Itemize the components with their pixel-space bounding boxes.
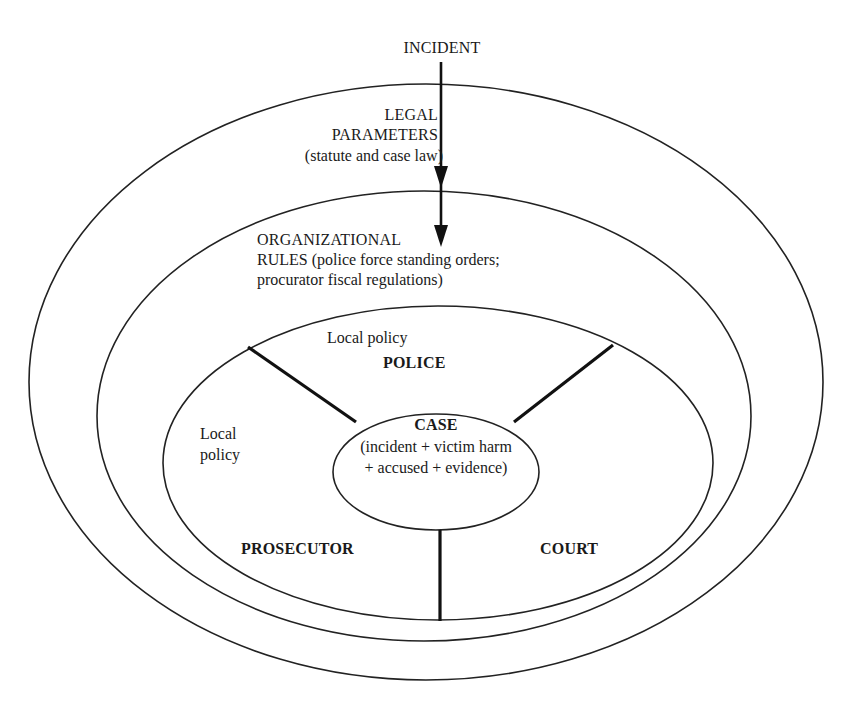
spoke-police-court [514,345,613,422]
case-title: CASE [386,415,486,434]
prosecutor-label: PROSECUTOR [241,539,354,558]
incident-label: INCIDENT [400,38,484,57]
case-description: + accused + evidence) [336,458,536,477]
legal-parameters-label: LEGAL [300,105,438,124]
arrowhead-icon [434,166,448,188]
arrowhead-icon [434,225,448,247]
organizational-rules-description: procurator fiscal regulations) [257,270,443,289]
prosecutor-local-policy: Local [200,424,236,443]
legal-parameters-label: PARAMETERS [300,125,438,144]
legal-parameters-description: (statute and case law) [250,146,443,165]
legal-parameters-ellipse [29,84,823,680]
organizational-rules-description: RULES (police force standing orders; [257,250,500,269]
police-label: POLICE [383,353,446,372]
prosecutor-local-policy: policy [200,445,240,464]
case-description: (incident + victim harm [336,437,536,456]
court-label: COURT [540,539,598,558]
police-local-policy: Local policy [327,328,407,347]
organizational-rules-label: ORGANIZATIONAL [257,230,401,249]
spoke-police-prosecutor [248,347,356,422]
